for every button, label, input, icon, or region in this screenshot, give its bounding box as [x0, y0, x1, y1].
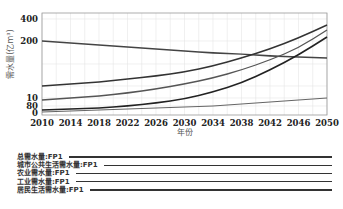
x-tick-label: 2030: [173, 118, 197, 128]
x-tick-label: 2042: [258, 118, 282, 128]
chart-legend: 总需水量:FP1城市公共生活需水量:FP1农业需水量:FP1工业需水量:FP1居…: [17, 153, 332, 194]
x-axis-label: 年份: [177, 127, 193, 137]
y-tick-label: 10: [26, 93, 38, 103]
y-tick-label: 200: [20, 36, 38, 46]
legend-item: 总需水量:FP1: [17, 153, 332, 161]
y-axis-label: 需水量(亿m³): [5, 29, 15, 78]
legend-line-swatch: [76, 181, 332, 183]
legend-item: 农业需水量:FP1: [17, 169, 332, 177]
legend-line-swatch: [69, 156, 332, 158]
legend-label: 农业需水量:FP1: [17, 169, 70, 177]
x-tick-label: 2038: [230, 118, 254, 128]
legend-line-swatch: [104, 165, 332, 167]
legend-item: 工业需水量:FP1: [17, 178, 332, 186]
x-tick-label: 2010: [30, 118, 54, 128]
legend-item: 居民生活需水量:FP1: [17, 186, 332, 194]
x-tick-label: 2034: [201, 118, 225, 128]
y-tick-label: 400: [20, 14, 38, 24]
x-tick-label: 2050: [315, 118, 339, 128]
line-chart: 0801020040020102014201820222026203020342…: [0, 0, 343, 150]
legend-label: 工业需水量:FP1: [17, 178, 70, 186]
x-tick-label: 2018: [87, 118, 111, 128]
x-tick-label: 2026: [144, 118, 168, 128]
legend-line-swatch: [90, 189, 332, 191]
x-tick-label: 2014: [59, 118, 83, 128]
x-tick-label: 2046: [287, 118, 311, 128]
legend-label: 居民生活需水量:FP1: [17, 186, 84, 194]
x-tick-label: 2022: [116, 118, 140, 128]
legend-label: 总需水量:FP1: [17, 153, 63, 161]
legend-line-swatch: [76, 173, 332, 175]
